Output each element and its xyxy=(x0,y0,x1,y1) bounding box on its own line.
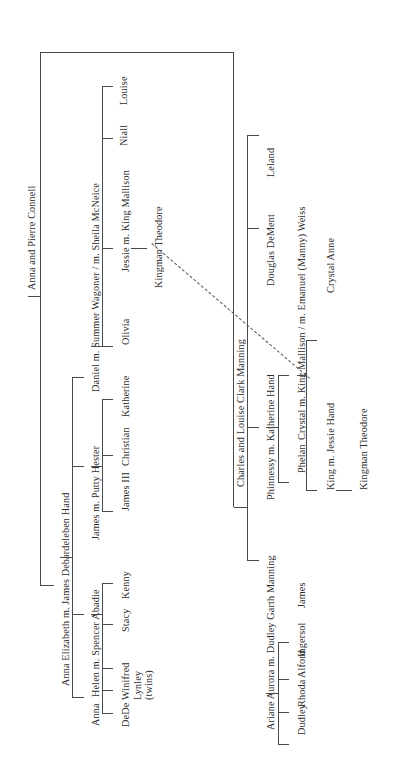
tick-dede xyxy=(103,713,113,714)
tick-phelan xyxy=(279,482,289,483)
anna-elizabeth-children-spine xyxy=(72,377,73,697)
tick-winifred xyxy=(103,690,113,691)
tick-james-iii xyxy=(103,511,113,512)
tick-dudley xyxy=(279,744,289,745)
tick-daniel xyxy=(73,377,84,378)
tick-phinnessy xyxy=(248,427,259,428)
tick-olivia xyxy=(103,346,113,347)
tick-christian xyxy=(103,455,113,456)
tick-lynley xyxy=(103,668,113,669)
label-jessie: Jessie m. King Mallison xyxy=(120,170,132,272)
label-daniel: Daniel m. Summer Wagoner / m. Sheila McN… xyxy=(90,183,102,392)
label-twins: (twins) xyxy=(143,670,154,700)
label-leland: Leland xyxy=(265,148,277,177)
label-anna-elizabeth: Anna Elizabeth m. James Debardeleben Han… xyxy=(60,493,72,686)
label-root: Anna and Pierre Connell xyxy=(26,186,38,290)
manning-children-stem xyxy=(234,507,248,508)
tick-alford xyxy=(279,679,289,680)
tick-crystal xyxy=(279,375,289,376)
tick-king xyxy=(307,490,317,491)
label-charles-louise: Charles and Louise Clark Manning xyxy=(235,339,247,487)
label-louise: Louise xyxy=(118,76,130,105)
label-niall: Niall xyxy=(118,125,130,146)
tick-james xyxy=(73,466,84,467)
tick-jessie xyxy=(103,248,113,249)
label-stacy: Stacy xyxy=(120,609,132,632)
tick-kingman-left xyxy=(131,248,147,249)
crystal-children-spine xyxy=(306,340,307,490)
tick-anna xyxy=(73,697,84,698)
tick-katherine xyxy=(103,399,113,400)
tick-anna-elizabeth xyxy=(41,585,54,586)
label-winifred: Winifred xyxy=(120,662,131,700)
label-douglas: Douglas DeMent xyxy=(265,214,277,286)
tick-crystal-anne xyxy=(307,340,317,341)
tick-kingman-right xyxy=(336,490,352,491)
tick-james-manning-2 xyxy=(279,642,289,643)
label-dudley: Dudley xyxy=(296,704,308,735)
label-kenny: Kenny xyxy=(120,571,132,599)
label-olivia: Olivia xyxy=(120,319,132,345)
manning-connector xyxy=(233,52,234,507)
label-ingersol: Ingersol xyxy=(296,622,308,657)
tick-louise xyxy=(103,86,113,87)
tick-ariane xyxy=(248,560,259,561)
root-spine xyxy=(40,52,41,586)
label-rhoda: Rhoda xyxy=(296,680,308,707)
daniel-children-spine xyxy=(102,86,103,346)
label-dede: DeDe xyxy=(120,703,132,727)
label-king: King m. Jessie Hand xyxy=(325,403,337,490)
tick-niall xyxy=(103,138,113,139)
label-kingman-theodore-right: Kingman Theodore xyxy=(358,408,370,490)
label-katherine: Katherine xyxy=(120,375,132,417)
kingman-theodore-link-dashed xyxy=(151,243,310,379)
phinnessy-children-stem xyxy=(266,427,279,428)
label-winifred-lynley-twins: Winifred Lynley (twins) xyxy=(120,662,155,700)
label-james-iii: James III xyxy=(120,472,132,511)
label-anna: Anna xyxy=(90,703,102,726)
family-tree-diagram: Anna and Pierre Connell Anna Elizabeth m… xyxy=(0,0,408,758)
root-stem xyxy=(28,296,41,297)
tick-leland xyxy=(248,135,259,136)
ariane-children-stem xyxy=(266,693,279,694)
james-children-stem xyxy=(91,466,103,467)
tick-douglas xyxy=(248,228,259,229)
label-ariane: Ariane Aurora m. Dudley Garth Manning xyxy=(265,555,277,730)
label-phinnessy: Phinnessy m. Katherine Hand xyxy=(265,374,277,500)
tick-charles-louise xyxy=(41,52,54,53)
helen-children-spine xyxy=(102,583,103,713)
label-helen: Helen m. Spencer Abadie xyxy=(90,589,102,697)
tick-helen xyxy=(73,614,84,615)
tick-kenny xyxy=(103,583,113,584)
anna-elizabeth-children-stem xyxy=(60,557,73,558)
root-top-run xyxy=(54,52,234,53)
manning-children-spine xyxy=(247,135,248,560)
label-crystal-anne: Crystal Anne xyxy=(325,238,337,293)
phinnessy-children-spine xyxy=(278,375,279,482)
label-james: James m. Putty Hester xyxy=(90,446,102,540)
label-christian: Christian xyxy=(120,427,132,466)
label-james-manning: James xyxy=(296,582,308,608)
tick-stacy xyxy=(103,624,113,625)
helen-children-stem xyxy=(91,614,103,615)
label-lynley: Lynley xyxy=(132,671,143,700)
tick-rhoda xyxy=(279,712,289,713)
